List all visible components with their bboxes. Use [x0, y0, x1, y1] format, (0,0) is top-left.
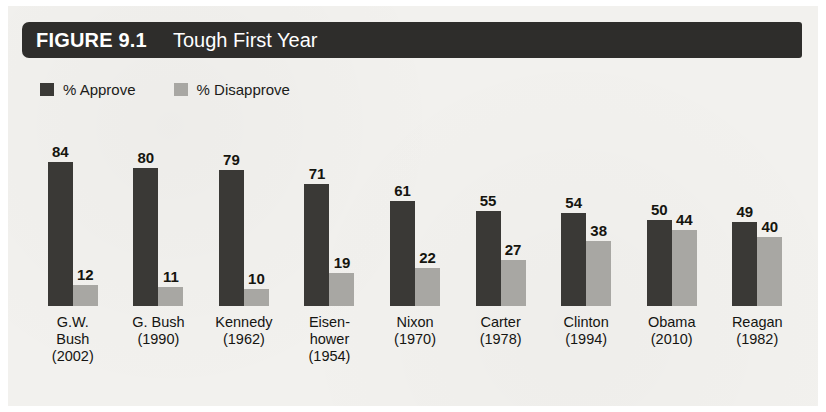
bar-disapprove[interactable] — [244, 289, 269, 306]
bar-value-disapprove: 19 — [334, 255, 351, 270]
bar-group: 7119 — [287, 118, 373, 306]
figure-container: FIGURE 9.1 Tough First Year % Approve % … — [0, 0, 826, 412]
x-axis-label-line: Obama — [629, 314, 715, 331]
bar-value-disapprove: 11 — [163, 269, 179, 284]
x-axis-label: Obama(2010) — [629, 314, 715, 365]
legend-item-disapprove: % Disapprove — [174, 82, 290, 97]
bar-approve[interactable] — [561, 213, 586, 306]
bar-disapprove[interactable] — [586, 241, 611, 306]
legend-label-disapprove: % Disapprove — [197, 82, 290, 97]
bar-disapprove[interactable] — [73, 285, 98, 306]
bar-group: 8412 — [30, 118, 116, 306]
bar-value-approve: 54 — [565, 195, 582, 210]
bar-wrap-disapprove: 22 — [415, 118, 440, 306]
bar-approve[interactable] — [390, 201, 415, 306]
bar-approve[interactable] — [219, 170, 244, 306]
bar-groups: 841280117910711961225527543850444940 — [30, 118, 800, 306]
x-axis-label-line: (1978) — [458, 331, 544, 348]
x-axis-label-line: G. Bush — [116, 314, 202, 331]
bar-wrap-approve: 49 — [732, 118, 757, 306]
bar-pair: 5438 — [561, 118, 611, 306]
bar-disapprove[interactable] — [415, 268, 440, 306]
bar-pair: 8412 — [48, 118, 98, 306]
x-axis-label: Eisen-hower(1954) — [287, 314, 373, 365]
bar-value-approve: 84 — [52, 144, 69, 159]
bar-value-approve: 79 — [223, 152, 240, 167]
x-axis-label-line: (2010) — [629, 331, 715, 348]
x-axis-label-line: (1954) — [287, 348, 373, 365]
bar-disapprove[interactable] — [501, 260, 526, 306]
x-axis-label: Kennedy(1962) — [201, 314, 287, 365]
chart-legend: % Approve % Disapprove — [40, 82, 328, 97]
bar-value-disapprove: 27 — [505, 242, 522, 257]
x-axis-label-line: (2002) — [30, 348, 116, 365]
bar-wrap-approve: 84 — [48, 118, 73, 306]
bar-approve[interactable] — [732, 222, 757, 306]
bar-approve[interactable] — [304, 184, 329, 306]
bar-pair: 7910 — [219, 118, 269, 306]
legend-swatch-approve-icon — [40, 83, 54, 96]
bar-value-approve: 61 — [394, 183, 411, 198]
x-axis-label-line: (1990) — [116, 331, 202, 348]
bar-approve[interactable] — [647, 220, 672, 306]
bar-wrap-approve: 55 — [476, 118, 501, 306]
bar-value-approve: 49 — [736, 204, 753, 219]
bar-value-disapprove: 44 — [676, 212, 693, 227]
x-axis-label-line: Carter — [458, 314, 544, 331]
bar-wrap-approve: 79 — [219, 118, 244, 306]
bar-group: 7910 — [201, 118, 287, 306]
bar-wrap-approve: 71 — [304, 118, 329, 306]
x-axis-label-line: (1994) — [543, 331, 629, 348]
bar-wrap-disapprove: 12 — [73, 118, 98, 306]
bar-value-disapprove: 38 — [590, 223, 607, 238]
x-axis-label: Carter(1978) — [458, 314, 544, 365]
bar-group: 5527 — [458, 118, 544, 306]
bar-value-approve: 71 — [309, 166, 326, 181]
x-axis-label-line: Reagan — [715, 314, 801, 331]
bar-group: 5044 — [629, 118, 715, 306]
bar-value-disapprove: 10 — [248, 271, 265, 286]
legend-item-approve: % Approve — [40, 82, 136, 97]
bar-group: 5438 — [543, 118, 629, 306]
bar-pair: 5527 — [476, 118, 526, 306]
bar-disapprove[interactable] — [329, 273, 354, 306]
x-axis-label-line: Bush — [30, 331, 116, 348]
x-axis-labels: G.W.Bush(2002)G. Bush(1990)Kennedy(1962)… — [30, 314, 800, 365]
x-axis-label-line: (1970) — [372, 331, 458, 348]
bar-wrap-approve: 54 — [561, 118, 586, 306]
x-axis-label: Nixon(1970) — [372, 314, 458, 365]
figure-title: Tough First Year — [173, 30, 318, 50]
bar-pair: 4940 — [732, 118, 782, 306]
legend-label-approve: % Approve — [63, 82, 136, 97]
bar-pair: 5044 — [647, 118, 697, 306]
bar-value-approve: 55 — [480, 193, 497, 208]
x-axis-label-line: G.W. — [30, 314, 116, 331]
bar-value-approve: 50 — [651, 202, 668, 217]
bar-wrap-disapprove: 38 — [586, 118, 611, 306]
bar-wrap-disapprove: 40 — [757, 118, 782, 306]
chart-plot-area: 841280117910711961225527543850444940 — [30, 118, 800, 306]
x-axis-label-line: Clinton — [543, 314, 629, 331]
x-axis-label-line: (1962) — [201, 331, 287, 348]
bar-wrap-disapprove: 44 — [672, 118, 697, 306]
bar-group: 8011 — [116, 118, 202, 306]
bar-group: 4940 — [715, 118, 801, 306]
bar-pair: 6122 — [390, 118, 440, 306]
bar-disapprove[interactable] — [672, 230, 697, 306]
x-axis-label-line: (1982) — [715, 331, 801, 348]
bar-value-approve: 80 — [138, 150, 155, 165]
bar-approve[interactable] — [133, 168, 158, 306]
bar-approve[interactable] — [476, 211, 501, 306]
x-axis-label-line: Kennedy — [201, 314, 287, 331]
x-axis-label: Clinton(1994) — [543, 314, 629, 365]
bar-wrap-approve: 61 — [390, 118, 415, 306]
bar-value-disapprove: 22 — [419, 250, 436, 265]
bar-wrap-disapprove: 27 — [501, 118, 526, 306]
x-axis-label: Reagan(1982) — [715, 314, 801, 365]
bar-pair: 8011 — [133, 118, 183, 306]
bar-disapprove[interactable] — [158, 287, 183, 306]
bar-approve[interactable] — [48, 162, 73, 306]
bar-pair: 7119 — [304, 118, 354, 306]
bar-disapprove[interactable] — [757, 237, 782, 306]
bar-value-disapprove: 12 — [77, 267, 94, 282]
